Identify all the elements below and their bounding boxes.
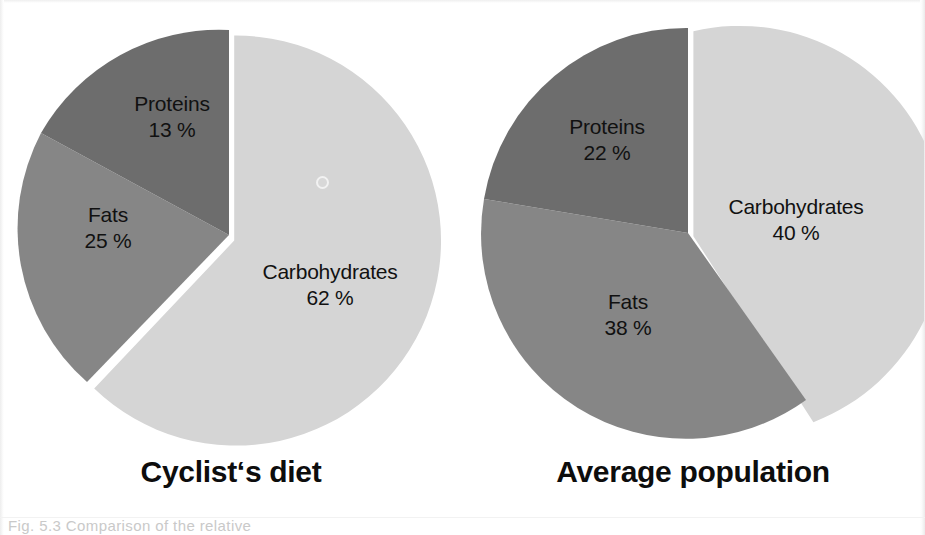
pie-panel-average-population: Carbohydrates 40 % Fats 38 % Proteins 22…: [462, 0, 924, 535]
pie-label-fats-value: 38 %: [604, 315, 651, 341]
pie-label-carbohydrates-value: 62 %: [262, 285, 397, 311]
pie-title-cyclist: Cyclist‘s diet: [0, 455, 462, 489]
pie-label-carbohydrates-name: Carbohydrates: [262, 259, 397, 285]
pie-label-proteins-name: Proteins: [134, 91, 209, 117]
pie-chart-average-population: Carbohydrates 40 % Fats 38 % Proteins 22…: [462, 0, 924, 455]
pie-svg-cyclist: [0, 0, 462, 455]
pie-label-carbohydrates: Carbohydrates 62 %: [262, 259, 397, 311]
figure-caption: Fig. 5.3 Comparison of the relative: [8, 519, 251, 534]
pie-label-proteins-value: 22 %: [569, 140, 644, 166]
pie-label-fats-value: 25 %: [84, 228, 131, 254]
pie-label-proteins: Proteins 22 %: [569, 114, 644, 166]
pie-label-proteins: Proteins 13 %: [134, 91, 209, 143]
pie-title-average-population: Average population: [462, 455, 924, 489]
caption-divider: [0, 517, 925, 518]
pie-chart-cyclist: Carbohydrates 62 % Fats 25 % Proteins 13…: [0, 0, 462, 455]
figure-caption-strip: Fig. 5.3 Comparison of the relative: [0, 519, 925, 535]
scan-artifact-dot: [316, 176, 329, 189]
pie-label-carbohydrates: Carbohydrates 40 %: [728, 194, 863, 246]
pie-label-carbohydrates-value: 40 %: [728, 220, 863, 246]
pie-label-carbohydrates-name: Carbohydrates: [728, 194, 863, 220]
pie-label-fats-name: Fats: [604, 289, 651, 315]
pie-label-proteins-name: Proteins: [569, 114, 644, 140]
figure-canvas: Carbohydrates 62 % Fats 25 % Proteins 13…: [0, 0, 925, 535]
pie-label-proteins-value: 13 %: [134, 117, 209, 143]
pie-label-fats: Fats 25 %: [84, 202, 131, 254]
pie-label-fats-name: Fats: [84, 202, 131, 228]
pie-label-fats: Fats 38 %: [604, 289, 651, 341]
pie-panel-cyclist: Carbohydrates 62 % Fats 25 % Proteins 13…: [0, 0, 462, 535]
